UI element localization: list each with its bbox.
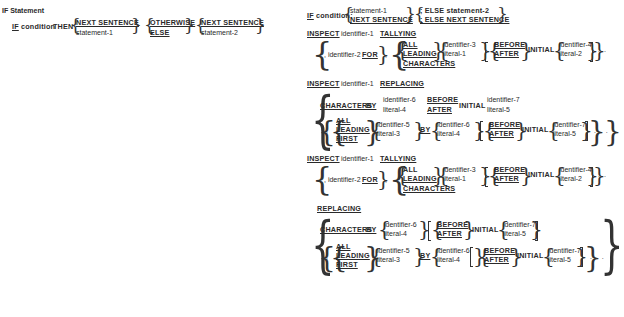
keyword-initial: INITIAL — [522, 126, 549, 134]
option-statement-1: statement-1 — [76, 29, 113, 37]
right-brace-icon: } — [377, 44, 390, 64]
right-brace-icon: } — [255, 17, 266, 34]
keyword-for: FOR — [362, 51, 378, 59]
identifier-6: identifier-6 — [437, 247, 470, 255]
identifier-3: identifier-3 — [443, 166, 476, 174]
literal-4: literal-4 — [437, 130, 460, 138]
literal-2: literal-2 — [559, 50, 582, 58]
option-statement-1: statement-1 — [350, 7, 387, 15]
literal-5: literal-5 — [503, 230, 526, 238]
comma: , — [326, 127, 328, 135]
ellipsis: . . . — [598, 171, 611, 185]
literal-1: literal-1 — [443, 175, 466, 183]
literal-5: literal-5 — [553, 130, 576, 138]
option-first: FIRST — [336, 135, 358, 143]
right-brace-icon: } — [184, 17, 195, 34]
identifier-1: identifier-1 — [341, 30, 374, 38]
if-statement-title: IF Statement — [2, 7, 44, 15]
literal-5: literal-5 — [548, 256, 571, 264]
option-next-sentence: NEXT SENTENCE — [76, 19, 139, 27]
identifier-5: identifier-5 — [377, 121, 410, 129]
literal-4: literal-4 — [384, 230, 407, 238]
identifier-1: identifier-1 — [341, 155, 374, 163]
option-after: AFTER — [427, 106, 452, 114]
keyword-initial: INITIAL — [528, 171, 555, 179]
identifier-6: identifier-6 — [384, 221, 417, 229]
identifier-6: identifier-6 — [437, 121, 470, 129]
keyword-by: BY — [420, 126, 430, 134]
option-statement-2: statement-2 — [201, 29, 238, 37]
literal-3: literal-3 — [377, 130, 400, 138]
right-bracket-icon — [535, 221, 538, 241]
identifier-1: identifier-1 — [341, 80, 374, 88]
keyword-if: IF — [307, 12, 314, 20]
option-all: ALL — [403, 166, 418, 174]
option-after: AFTER — [494, 50, 519, 58]
option-characters: CHARACTERS — [320, 226, 372, 234]
identifier-5: identifier-5 — [377, 247, 410, 255]
identifier-6: identifier-6 — [383, 96, 416, 104]
keyword-by: BY — [366, 226, 376, 234]
option-else: ELSE — [150, 29, 170, 37]
identifier-7: identifier-7 — [487, 96, 520, 104]
keyword-initial: INITIAL — [459, 102, 486, 110]
literal-4: literal-4 — [383, 106, 406, 114]
identifier-2: , identifier-2 — [324, 51, 361, 59]
literal-1: literal-1 — [443, 50, 466, 58]
keyword-if: IF — [12, 23, 19, 31]
right-brace-icon: } — [131, 17, 142, 34]
identifier-3: identifier-3 — [443, 41, 476, 49]
option-first: FIRST — [336, 261, 358, 269]
literal-4: literal-4 — [437, 256, 460, 264]
right-brace-icon: } — [600, 214, 624, 276]
option-else-statement-2: ; ELSE statement-2 — [420, 7, 489, 15]
comma: , — [385, 176, 387, 184]
identifier-2: , identifier-2 — [324, 176, 361, 184]
option-after: AFTER — [494, 175, 519, 183]
keyword-replacing: REPLACING — [380, 80, 424, 88]
option-all: ALL — [336, 243, 351, 251]
option-after: AFTER — [437, 230, 462, 238]
keyword-by: BY — [420, 252, 430, 260]
option-all: ALL — [336, 117, 351, 125]
keyword-initial: INITIAL — [528, 46, 555, 54]
comma: , — [326, 253, 328, 261]
ellipsis: . . . — [598, 46, 611, 60]
option-characters: CHARACTERS — [320, 102, 372, 110]
keyword-by: BY — [366, 102, 376, 110]
right-bracket-icon — [580, 247, 583, 267]
literal-2: literal-2 — [559, 175, 582, 183]
keyword-for: FOR — [362, 176, 378, 184]
right-brace-icon: } — [604, 118, 622, 146]
right-brace-icon: } — [497, 6, 508, 23]
literal-3: literal-3 — [377, 256, 400, 264]
option-all: ALL — [403, 41, 418, 49]
left-bracket-icon — [470, 247, 473, 267]
literal-5: literal-5 — [487, 106, 510, 114]
keyword-initial: INITIAL — [472, 226, 499, 234]
keyword-initial: INITIAL — [517, 252, 544, 260]
right-brace-icon: } — [377, 169, 390, 189]
option-next-sentence: NEXT SENTENCE — [350, 16, 413, 24]
option-before: BEFORE — [427, 96, 458, 104]
option-after: AFTER — [489, 130, 514, 138]
condition: condition — [21, 23, 55, 31]
option-after: AFTER — [484, 256, 509, 264]
comma: , — [385, 51, 387, 59]
